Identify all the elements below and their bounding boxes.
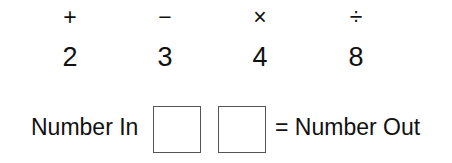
number-option[interactable]: 2 xyxy=(50,44,90,71)
operator-drop-box[interactable] xyxy=(153,106,201,153)
divide-operator[interactable]: ÷ xyxy=(336,6,376,29)
number-option[interactable]: 3 xyxy=(145,44,185,71)
minus-operator[interactable]: − xyxy=(145,6,185,29)
number-option[interactable]: 8 xyxy=(336,44,376,71)
number-drop-box[interactable] xyxy=(218,106,266,153)
number-out-label: = Number Out xyxy=(275,116,420,139)
number-in-label: Number In xyxy=(31,116,138,139)
plus-operator[interactable]: + xyxy=(50,6,90,29)
times-operator[interactable]: × xyxy=(240,6,280,29)
number-option[interactable]: 4 xyxy=(240,44,280,71)
